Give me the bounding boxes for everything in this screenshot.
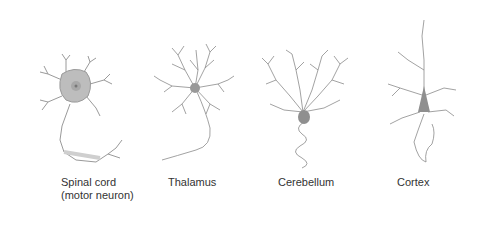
cortex-neuron-soma <box>418 86 430 112</box>
thalamus-neuron-soma <box>190 83 200 93</box>
label-cortex: Cortex <box>397 176 429 189</box>
cerebellum-neuron-soma <box>298 110 310 124</box>
cortex-neuron-illustration <box>388 20 456 162</box>
thalamus-neuron-illustration <box>154 44 234 160</box>
cerebellum-neuron-illustration <box>262 50 348 168</box>
label-spinal-cord: Spinal cord (motor neuron) <box>61 176 134 202</box>
label-thalamus: Thalamus <box>168 176 216 189</box>
label-cerebellum: Cerebellum <box>278 176 334 189</box>
